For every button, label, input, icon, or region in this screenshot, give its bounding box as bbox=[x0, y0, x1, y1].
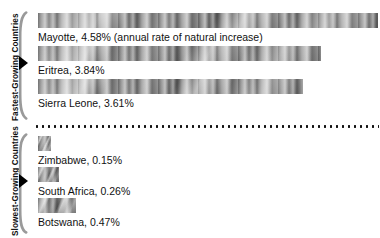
bar-row-mayotte: Mayotte, 4.58% (annual rate of natural i… bbox=[38, 13, 378, 44]
bar-label-botswana: Botswana, 0.47% bbox=[38, 215, 120, 229]
bar-row-south-africa: South Africa, 0.26% bbox=[38, 167, 130, 198]
bar-zimbabwe bbox=[38, 136, 51, 151]
bar-row-eritrea: Eritrea, 3.84% bbox=[38, 46, 321, 77]
bar-row-zimbabwe: Zimbabwe, 0.15% bbox=[38, 136, 122, 167]
bracket-arrow-icon bbox=[19, 56, 28, 70]
bar-label-sierra-leone: Sierra Leone, 3.61% bbox=[38, 96, 303, 110]
bracket-arrow-icon bbox=[19, 174, 28, 188]
bar-botswana bbox=[38, 198, 76, 213]
bar-row-botswana: Botswana, 0.47% bbox=[38, 198, 120, 229]
bracket-fastest-growing bbox=[18, 11, 28, 120]
bar-label-south-africa: South Africa, 0.26% bbox=[38, 184, 130, 198]
bar-eritrea bbox=[38, 46, 321, 61]
bar-row-sierra-leone: Sierra Leone, 3.61% bbox=[38, 79, 303, 110]
bar-south-africa bbox=[38, 167, 59, 182]
bar-label-mayotte: Mayotte, 4.58% (annual rate of natural i… bbox=[38, 30, 378, 44]
bar-rows-container: Mayotte, 4.58% (annual rate of natural i… bbox=[38, 0, 380, 238]
bar-photo-fill bbox=[38, 79, 303, 94]
group-label-fastest-growing: Fastest-Growing Countries bbox=[0, 8, 14, 121]
bar-photo-fill bbox=[38, 13, 378, 28]
group-label-slowest-growing: Slowest-Growing Countries bbox=[0, 130, 14, 236]
bar-sierra-leone bbox=[38, 79, 303, 94]
bracket-slowest-growing bbox=[18, 133, 28, 234]
bar-photo-fill bbox=[38, 198, 76, 213]
bar-label-eritrea: Eritrea, 3.84% bbox=[38, 63, 321, 77]
bar-mayotte bbox=[38, 13, 378, 28]
bar-photo-fill bbox=[38, 167, 59, 182]
bar-label-zimbabwe: Zimbabwe, 0.15% bbox=[38, 153, 122, 167]
bar-photo-fill bbox=[38, 136, 51, 151]
bar-photo-fill bbox=[38, 46, 321, 61]
